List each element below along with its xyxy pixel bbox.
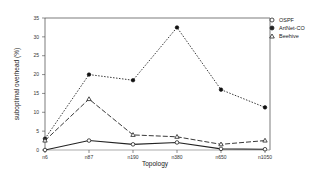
y-axis-label: suboptimal overhead (%) [13,48,21,120]
x-axis-label: Topology [142,160,169,168]
data-point-marker [131,78,135,82]
open-circle-icon [270,18,274,22]
y-tick-label: 35 [33,15,39,21]
legend-item-ospf: OSPF [270,17,295,23]
x-tick-label: n1050 [258,154,272,160]
legend-label-artnet-co: ArtNet-CO [279,25,305,31]
data-point-marker [175,141,179,145]
data-point-marker [219,147,223,151]
y-tick-label: 15 [33,90,39,96]
legend-label-beehive: Beehive [279,33,299,39]
legend-label-ospf: OSPF [279,17,295,23]
data-point-marker [87,139,91,143]
axes: 05101520253035n6n87n190n380n650n1050 [33,15,272,160]
data-point-marker [43,148,47,152]
filled-circle-icon [270,26,274,30]
series-artnet-co [43,26,267,141]
data-point-marker [263,138,267,142]
data-point-marker [175,135,179,139]
y-tick-label: 30 [33,34,39,40]
x-tick-label: n190 [127,154,138,160]
y-tick-label: 5 [36,128,39,134]
x-tick-label: n380 [171,154,182,160]
data-point-marker [263,147,267,151]
open-triangle-icon [270,34,275,38]
data-point-marker [131,143,135,147]
data-point-marker [263,106,267,110]
data-point-marker [219,88,223,92]
x-tick-label: n650 [215,154,226,160]
x-tick-label: n87 [85,154,94,160]
y-tick-label: 20 [33,71,39,77]
legend-item-beehive: Beehive [270,33,299,39]
series-line [45,27,265,138]
series-beehive [43,97,267,146]
chart-canvas: 05101520253035n6n87n190n380n650n1050 Top… [0,0,316,187]
data-point-marker [219,142,223,146]
y-tick-label: 0 [36,147,39,153]
data-point-marker [87,97,91,101]
y-tick-label: 10 [33,109,39,115]
series-line [45,99,265,144]
y-tick-label: 25 [33,52,39,58]
series-group [43,26,267,152]
series-line [45,141,265,150]
legend: OSPF ArtNet-CO Beehive [270,17,306,39]
line-chart: 05101520253035n6n87n190n380n650n1050 Top… [0,0,316,187]
data-point-marker [87,73,91,77]
x-tick-label: n6 [42,154,48,160]
data-point-marker [175,26,179,30]
legend-item-artnet-co: ArtNet-CO [270,25,305,31]
